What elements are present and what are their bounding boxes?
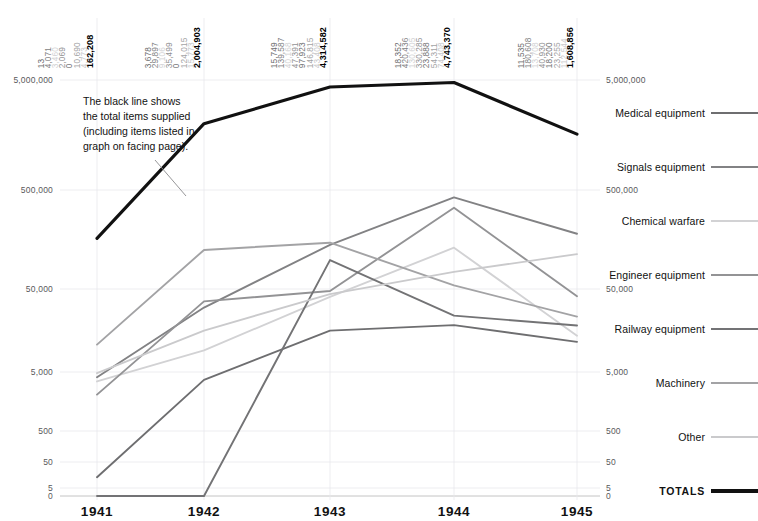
y-axis-tick-label: 50: [0, 457, 53, 467]
legend-item-label: Engineer equipment: [609, 269, 705, 281]
legend-item-label: Signals equipment: [617, 161, 705, 173]
legend-item-label: Machinery: [656, 377, 705, 389]
legend-item-label: TOTALS: [659, 485, 705, 497]
series-line: [97, 208, 577, 395]
supply-chart: 134,0713,4602,069010,6904,773162,2083,67…: [0, 0, 758, 521]
legend-item[interactable]: Engineer equipment: [628, 248, 758, 302]
series-line: [97, 260, 577, 496]
legend-item-label: Railway equipment: [615, 323, 705, 335]
y-axis-tick-label: 5,000: [0, 367, 53, 377]
annotation-note: The black line shows the total items sup…: [83, 94, 243, 154]
series-line: [97, 325, 577, 477]
legend-color-swatch: [711, 274, 758, 276]
series-line: [97, 254, 577, 373]
annotation-leader-line: [155, 160, 186, 196]
legend-item-label: Other: [678, 431, 705, 443]
legend-item[interactable]: Machinery: [628, 356, 758, 410]
legend: Medical equipmentSignals equipmentChemic…: [628, 86, 758, 518]
legend-color-swatch: [711, 489, 758, 492]
y-axis-tick-label: 500,000: [0, 185, 53, 195]
legend-color-swatch: [711, 328, 758, 330]
y-axis-tick-label: 0: [0, 491, 53, 501]
annotation-line-3: (including items listed in: [83, 124, 243, 139]
legend-item[interactable]: TOTALS: [628, 464, 758, 518]
legend-item-label: Medical equipment: [615, 107, 705, 119]
x-axis-tick-label: 1941: [81, 504, 113, 519]
y-axis-tick-label: 50,000: [0, 284, 53, 294]
legend-item-label: Chemical warfare: [622, 215, 705, 227]
annotation-line-2: the total items supplied: [83, 109, 243, 124]
x-axis-tick-label: 1942: [188, 504, 220, 519]
legend-color-swatch: [711, 382, 758, 384]
legend-item[interactable]: Signals equipment: [628, 140, 758, 194]
legend-color-swatch: [711, 112, 758, 114]
legend-color-swatch: [711, 166, 758, 168]
x-axis-tick-label: 1945: [561, 504, 593, 519]
legend-item[interactable]: Medical equipment: [628, 86, 758, 140]
annotation-line-4: graph on facing page).: [83, 139, 243, 154]
legend-color-swatch: [711, 436, 758, 438]
y-axis-tick-label: 5,000,000: [606, 75, 666, 85]
legend-item[interactable]: Chemical warfare: [628, 194, 758, 248]
x-axis-tick-label: 1943: [314, 504, 346, 519]
x-axis-tick-label: 1944: [438, 504, 470, 519]
series-line: [97, 248, 577, 382]
y-axis-tick-label: 500: [0, 426, 53, 436]
legend-item[interactable]: Railway equipment: [628, 302, 758, 356]
legend-item[interactable]: Other: [628, 410, 758, 464]
y-axis-tick-label: 5,000,000: [0, 75, 53, 85]
legend-color-swatch: [711, 220, 758, 222]
annotation-line-1: The black line shows: [83, 94, 243, 109]
